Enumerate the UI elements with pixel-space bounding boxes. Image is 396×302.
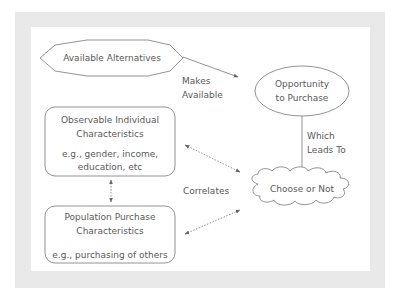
individual-example-line2: education, etc — [45, 160, 175, 174]
population-title-line1: Population Purchase — [45, 210, 175, 224]
individual-title-line2: Characteristics — [45, 127, 175, 141]
individual-example-line1: e.g., gender, income, — [45, 147, 175, 161]
individual-title-line1: Observable Individual — [45, 113, 175, 127]
population-title-line2: Characteristics — [45, 224, 175, 238]
correlates-label: Correlates — [183, 184, 229, 198]
leads-to-label-line2: Leads To — [307, 143, 346, 157]
opportunity-label-line1: Opportunity — [262, 77, 342, 91]
alternatives-label: Available Alternatives — [62, 51, 162, 65]
makes-available-label-line1: Makes — [182, 74, 210, 88]
choose-label: Choose or Not — [262, 182, 342, 196]
population-example-line1: e.g., purchasing of others — [45, 248, 175, 262]
makes-available-label-line2: Available — [182, 88, 223, 102]
leads-to-label-line1: Which — [307, 129, 335, 143]
opportunity-label-line2: to Purchase — [262, 91, 342, 105]
